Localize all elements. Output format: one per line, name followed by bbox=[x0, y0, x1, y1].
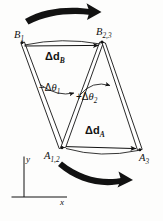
vertex-label-b23-sub: 2,3 bbox=[103, 32, 112, 40]
displacement-sub-a: A bbox=[100, 130, 105, 139]
joint-a12 bbox=[60, 146, 63, 149]
delta-d-a-group bbox=[66, 147, 138, 154]
vertex-label-a12-sub: 1,2 bbox=[51, 156, 60, 164]
displacement-label-delta-d-b: ΔdB bbox=[45, 51, 65, 65]
vertex-label-b1: B1 bbox=[14, 30, 24, 43]
vertex-label-b23: B2,3 bbox=[96, 27, 112, 40]
delta-d-a-arc bbox=[66, 149, 138, 155]
angle-sub-2: 2 bbox=[94, 97, 98, 105]
angle-delta-1: Δ bbox=[45, 82, 52, 93]
delta-d-b-arc bbox=[25, 41, 101, 45]
top-motion-arrow bbox=[25, 3, 102, 24]
angle-label-plus-delta-theta2: +Δθ2 bbox=[76, 92, 97, 105]
axis-label-y: y bbox=[26, 155, 30, 164]
vertex-label-a3: A3 bbox=[139, 153, 149, 166]
vertex-label-a12: A1,2 bbox=[44, 151, 60, 164]
displacement-sub-b: B bbox=[60, 56, 65, 65]
delta-d-a-vector bbox=[66, 147, 136, 149]
link-b23-a3 bbox=[102, 42, 142, 150]
axis-label-x: x bbox=[60, 198, 64, 207]
kinematic-diagram-figure: B1 B2,3 A1,2 A3 ΔdB ΔdA −Δθ1 +Δθ2 y x bbox=[0, 0, 163, 221]
delta-d-b-group bbox=[25, 41, 101, 46]
top-motion-arrow-body bbox=[25, 8, 92, 25]
vector-symbol-a: d bbox=[93, 124, 100, 136]
vertex-label-a3-sub: 3 bbox=[146, 158, 150, 166]
angle-delta-2: Δ bbox=[82, 91, 89, 102]
vertex-label-b1-sub: 1 bbox=[21, 35, 25, 43]
joint-b23 bbox=[100, 40, 103, 43]
vector-symbol-b: d bbox=[53, 50, 60, 62]
delta-symbol-a: Δ bbox=[85, 124, 93, 136]
diagram-canvas bbox=[0, 0, 163, 221]
bottom-motion-arrow-body bbox=[58, 162, 124, 186]
angle-sub-1: 1 bbox=[57, 88, 61, 96]
delta-d-b-vector bbox=[25, 45, 99, 46]
displacement-label-delta-d-a: ΔdA bbox=[85, 125, 105, 139]
angle-label-minus-delta-theta1: −Δθ1 bbox=[39, 83, 60, 96]
delta-symbol-b: Δ bbox=[45, 50, 53, 62]
bottom-motion-arrow bbox=[58, 162, 133, 188]
joint-a3 bbox=[138, 148, 141, 151]
